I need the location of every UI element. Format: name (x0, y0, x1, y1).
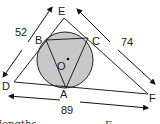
geometry-diagram: E B C O D A F 52 74 89 lengths E (0, 0, 160, 124)
label-f: F (149, 92, 156, 104)
dimension-arrow-de-2 (3, 50, 22, 77)
cropped-text-left: lengths (0, 118, 37, 124)
center-dot (67, 58, 70, 61)
dimension-arrow-ef-2 (118, 50, 155, 84)
label-a: A (60, 88, 68, 100)
dimension-arrow-df (9, 96, 60, 100)
length-ef: 74 (121, 36, 133, 48)
label-e: E (58, 5, 65, 17)
label-o: O (57, 60, 66, 72)
length-de: 52 (15, 26, 27, 38)
label-c: C (92, 35, 100, 47)
length-df: 89 (61, 104, 73, 116)
label-b: B (35, 34, 42, 46)
dimension-arrow-df-2 (80, 102, 148, 108)
cropped-text-right: E (105, 119, 112, 124)
label-d: D (2, 80, 10, 92)
